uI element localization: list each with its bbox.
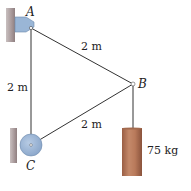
mass-top-edge bbox=[122, 128, 142, 130]
pin-a bbox=[29, 26, 32, 29]
mass-block bbox=[122, 128, 142, 176]
wall-bottom bbox=[10, 128, 17, 163]
cable-ab bbox=[31, 28, 133, 84]
cable-cb bbox=[31, 84, 133, 145]
label-point-b: B bbox=[138, 78, 147, 90]
statics-diagram: A B C 2 m 2 m 2 m 75 kg bbox=[0, 0, 191, 191]
pulley-c-axle bbox=[30, 144, 33, 147]
label-mass: 75 kg bbox=[147, 145, 178, 156]
label-dim-ac: 2 m bbox=[7, 82, 28, 93]
label-point-c: C bbox=[26, 160, 35, 172]
label-point-a: A bbox=[26, 6, 35, 18]
wall-top bbox=[6, 8, 15, 42]
joint-b bbox=[131, 82, 135, 86]
label-dim-ab: 2 m bbox=[81, 41, 102, 52]
label-dim-cb: 2 m bbox=[81, 119, 102, 130]
